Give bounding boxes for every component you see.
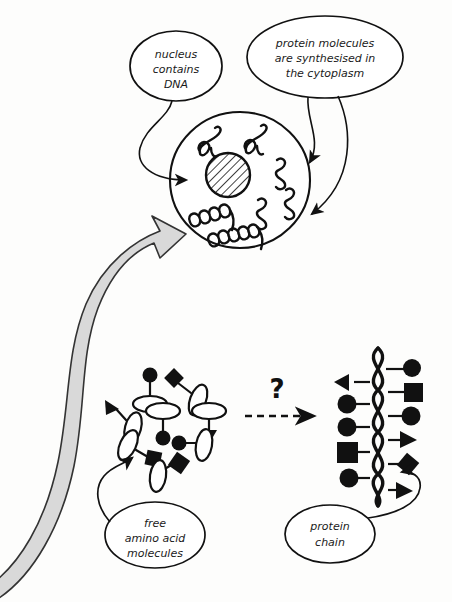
callout-line: the cytoplasm	[286, 67, 364, 80]
callout-line: contains	[153, 63, 200, 76]
nucleus	[206, 153, 250, 197]
callout-line: protein molecules	[275, 37, 375, 50]
callout-line: nucleus	[155, 48, 198, 61]
callout-bubble	[285, 505, 375, 563]
diagram-canvas: nucleus contains DNA protein molecules a…	[0, 0, 452, 602]
callout-line: amino acid	[125, 532, 187, 545]
protein-synthesis-diagram: nucleus contains DNA protein molecules a…	[0, 0, 452, 602]
callout-line: are synthesised in	[275, 52, 376, 65]
cell-diagram	[170, 112, 310, 249]
question-mark: ?	[269, 374, 284, 404]
callout-line: protein	[309, 520, 349, 533]
callout-line: molecules	[127, 547, 183, 560]
callout-line: chain	[315, 536, 345, 549]
callout-line: DNA	[164, 78, 188, 91]
background	[0, 0, 452, 602]
callout-line: free	[144, 517, 166, 530]
